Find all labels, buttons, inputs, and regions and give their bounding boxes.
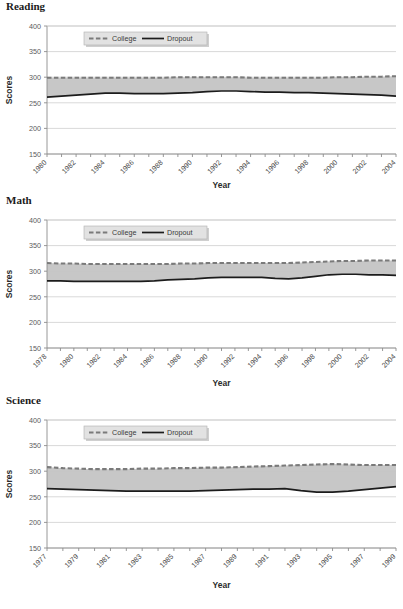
y-tick-label: 150 (29, 344, 41, 353)
x-tick-label: 2002 (353, 352, 371, 370)
x-tick-label: 1987 (189, 552, 207, 570)
y-tick-label: 350 (29, 441, 41, 450)
legend-label-dropout: Dropout (167, 228, 193, 237)
x-tick-label: 1980 (31, 158, 49, 176)
legend-label-dropout: Dropout (167, 428, 193, 437)
chart-reading: 1502002503003504001980198219841986198819… (0, 12, 403, 194)
chart-legend: CollegeDropout (84, 426, 209, 441)
panel-science: Science 15020025030035040019771979198119… (0, 394, 403, 596)
y-axis-title: Scores (4, 270, 14, 299)
y-tick-label: 400 (29, 22, 41, 31)
y-tick-label: 200 (29, 518, 41, 527)
y-tick-label: 300 (29, 267, 41, 276)
x-axis-title: Year (213, 180, 232, 190)
x-tick-label: 1977 (31, 552, 49, 570)
y-tick-label: 350 (29, 241, 41, 250)
x-tick-label: 2004 (380, 158, 398, 176)
y-tick-label: 250 (29, 493, 41, 502)
x-tick-label: 1988 (165, 352, 183, 370)
x-tick-label: 1995 (316, 552, 334, 570)
y-tick-label: 150 (29, 150, 41, 159)
x-tick-label: 1980 (58, 352, 76, 370)
x-tick-label: 1984 (111, 352, 129, 370)
legend-label-dropout: Dropout (167, 34, 193, 43)
x-tick-label: 1996 (272, 352, 290, 370)
x-tick-label: 1991 (253, 552, 271, 570)
legend-label-college: College (112, 228, 136, 237)
x-tick-label: 1996 (263, 158, 281, 176)
x-tick-label: 2000 (326, 352, 344, 370)
x-tick-label: 1990 (176, 158, 194, 176)
x-tick-label: 2002 (351, 158, 369, 176)
y-tick-label: 200 (29, 124, 41, 133)
panel-math: Math 15020025030035040019781980198219841… (0, 194, 403, 394)
x-tick-label: 1982 (60, 158, 78, 176)
x-tick-label: 1986 (138, 352, 156, 370)
x-tick-label: 1998 (299, 352, 317, 370)
x-axis-title: Year (213, 580, 232, 590)
x-tick-label: 1986 (118, 158, 136, 176)
chart-legend: CollegeDropout (84, 226, 209, 241)
x-tick-label: 1999 (380, 552, 398, 570)
x-tick-label: 1978 (31, 352, 49, 370)
y-tick-label: 250 (29, 99, 41, 108)
x-tick-label: 1992 (219, 352, 237, 370)
y-axis-title: Scores (4, 76, 14, 105)
y-tick-label: 150 (29, 544, 41, 553)
chart-math: 1502002503003504001978198019821984198619… (0, 206, 403, 394)
x-tick-label: 1997 (348, 552, 366, 570)
legend-label-college: College (112, 34, 136, 43)
plot-area-reading: 1502002503003504001980198219841986198819… (0, 12, 403, 194)
panel-reading: Reading 15020025030035040019801982198419… (0, 0, 403, 194)
y-tick-label: 300 (29, 467, 41, 476)
legend-label-college: College (112, 428, 136, 437)
plot-area-math: 1502002503003504001978198019821984198619… (0, 206, 403, 394)
y-tick-label: 350 (29, 47, 41, 56)
x-tick-label: 1988 (147, 158, 165, 176)
x-tick-label: 1981 (94, 552, 112, 570)
x-tick-label: 1983 (126, 552, 144, 570)
x-tick-label: 1985 (158, 552, 176, 570)
x-tick-label: 1994 (234, 158, 252, 176)
y-axis-title: Scores (4, 470, 14, 499)
x-tick-label: 2004 (380, 352, 398, 370)
x-tick-label: 2000 (322, 158, 340, 176)
y-tick-label: 400 (29, 216, 41, 225)
y-tick-label: 200 (29, 318, 41, 327)
panel-title-science: Science (0, 394, 403, 406)
panel-title-math: Math (0, 194, 403, 206)
y-tick-label: 300 (29, 73, 41, 82)
y-tick-label: 400 (29, 416, 41, 425)
x-tick-label: 1982 (84, 352, 102, 370)
chart-science: 1502002503003504001977197919811983198519… (0, 406, 403, 596)
plot-area-science: 1502002503003504001977197919811983198519… (0, 406, 403, 596)
x-tick-label: 1994 (246, 352, 264, 370)
x-tick-label: 1979 (62, 552, 80, 570)
panel-title-reading: Reading (0, 0, 403, 12)
x-tick-label: 1984 (89, 158, 107, 176)
x-tick-label: 1989 (221, 552, 239, 570)
x-axis-title: Year (213, 378, 232, 388)
y-tick-label: 250 (29, 293, 41, 302)
x-tick-label: 1993 (285, 552, 303, 570)
x-tick-label: 1992 (205, 158, 223, 176)
chart-legend: CollegeDropout (84, 32, 209, 47)
x-tick-label: 1990 (192, 352, 210, 370)
x-tick-label: 1998 (292, 158, 310, 176)
